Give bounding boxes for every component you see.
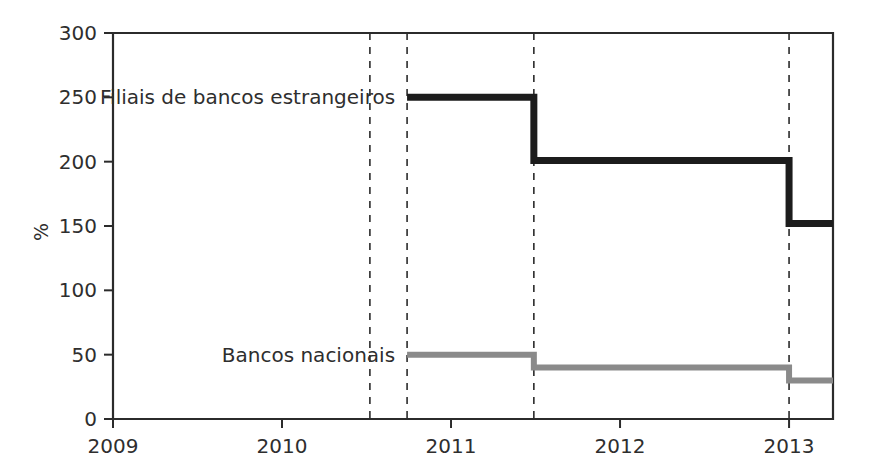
- x-axis-ticks: 20092010201120122013: [88, 419, 815, 458]
- y-tick-label-200: 200: [59, 150, 97, 174]
- series-label-bancos: Bancos nacionais: [222, 343, 395, 367]
- chart-container: 050100150200250300 20092010201120122013 …: [0, 0, 873, 476]
- series-paths: [407, 97, 833, 380]
- y-tick-label-300: 300: [59, 21, 97, 45]
- series-line-0: [407, 97, 833, 223]
- y-tick-label-0: 0: [84, 407, 97, 431]
- y-axis-ticks: 050100150200250300: [59, 21, 113, 431]
- x-tick-label-2011: 2011: [426, 434, 477, 458]
- step-line-chart: 050100150200250300 20092010201120122013 …: [0, 0, 873, 476]
- y-axis-title: %: [30, 223, 52, 241]
- dashed-vertical-lines: [370, 33, 789, 419]
- y-tick-label-100: 100: [59, 278, 97, 302]
- x-tick-label-2010: 2010: [257, 434, 308, 458]
- x-tick-label-2013: 2013: [764, 434, 815, 458]
- x-tick-label-2012: 2012: [595, 434, 646, 458]
- y-tick-label-250: 250: [59, 85, 97, 109]
- y-tick-label-50: 50: [72, 343, 97, 367]
- series-label-filiais: Filiais de bancos estrangeiros: [100, 85, 395, 109]
- x-tick-label-2009: 2009: [88, 434, 139, 458]
- series-line-1: [407, 355, 833, 381]
- y-tick-label-150: 150: [59, 214, 97, 238]
